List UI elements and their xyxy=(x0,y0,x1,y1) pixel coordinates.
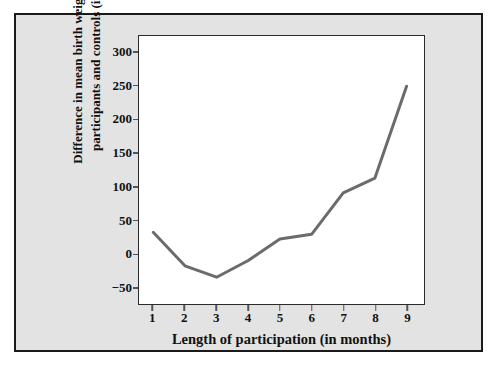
line-chart: Difference in mean birth weight between … xyxy=(16,15,481,350)
x-tick-label: 8 xyxy=(372,311,379,324)
y-tick-label: 300 xyxy=(113,45,133,58)
x-tick-label: 5 xyxy=(277,311,284,324)
y-tick-label: −50 xyxy=(112,281,132,294)
x-tick-label: 2 xyxy=(181,311,188,324)
y-axis-title-line-1: Difference in mean birth weight between xyxy=(69,0,87,187)
x-axis-title: Length of participation (in months) xyxy=(138,331,425,348)
y-tick-label: 200 xyxy=(113,112,133,125)
x-tick-label: 1 xyxy=(149,311,156,324)
x-tick-label: 9 xyxy=(404,311,411,324)
y-tick-label: 100 xyxy=(113,180,133,193)
y-tick-label: 250 xyxy=(113,79,133,92)
x-axis-tick-labels: 123456789 xyxy=(16,311,481,329)
x-tick-label: 4 xyxy=(245,311,252,324)
x-tick-label: 7 xyxy=(340,311,347,324)
y-tick-label: 50 xyxy=(119,214,132,227)
plot-area xyxy=(138,35,425,305)
x-tick-label: 3 xyxy=(213,311,220,324)
x-tick-label: 6 xyxy=(309,311,316,324)
data-series-line xyxy=(153,86,406,277)
y-tick-label: 0 xyxy=(126,247,133,260)
plot-svg xyxy=(139,36,424,304)
y-axis-tick-labels: −50050100150200250300 xyxy=(94,15,132,350)
figure-frame: Difference in mean birth weight between … xyxy=(14,13,483,352)
y-tick-label: 150 xyxy=(113,146,133,159)
